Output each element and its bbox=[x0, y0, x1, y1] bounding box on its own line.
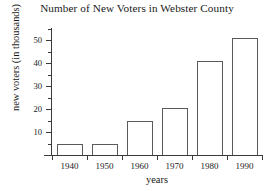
y-axis-major-tick bbox=[46, 63, 52, 64]
x-axis-tick bbox=[52, 155, 53, 160]
x-axis-tick-label: 1990 bbox=[225, 161, 265, 171]
bar-chart-figure: Number of New Voters in Webster County n… bbox=[0, 0, 274, 191]
y-axis-minor-tick bbox=[48, 52, 52, 53]
y-axis-minor-tick bbox=[48, 121, 52, 122]
x-axis-tick bbox=[157, 155, 158, 160]
x-axis-tick-label: 1970 bbox=[155, 161, 195, 171]
x-axis-tick bbox=[262, 155, 263, 160]
bar-1970 bbox=[162, 108, 188, 155]
x-axis-tick-label: 1940 bbox=[50, 161, 90, 171]
x-axis-tick-label: 1950 bbox=[85, 161, 125, 171]
bar-1980 bbox=[197, 61, 223, 155]
y-axis-tick-label: 20 bbox=[18, 105, 42, 114]
y-axis-line bbox=[51, 28, 52, 156]
x-axis-tick bbox=[87, 155, 88, 160]
bar-1940 bbox=[57, 144, 83, 155]
bar-1960 bbox=[127, 121, 153, 155]
y-axis-tick-label: 30 bbox=[18, 82, 42, 91]
x-axis-tick bbox=[192, 155, 193, 160]
y-axis-major-tick bbox=[46, 40, 52, 41]
y-axis-minor-tick bbox=[48, 75, 52, 76]
y-axis-major-tick bbox=[46, 132, 52, 133]
bar-1950 bbox=[92, 144, 118, 155]
chart-title: Number of New Voters in Webster County bbox=[0, 2, 274, 14]
x-axis-tick bbox=[227, 155, 228, 160]
y-axis-major-tick bbox=[46, 86, 52, 87]
y-axis-minor-tick bbox=[48, 144, 52, 145]
y-axis-tick-label: 40 bbox=[18, 59, 42, 68]
x-axis-tick bbox=[122, 155, 123, 160]
x-axis-title: years bbox=[52, 174, 262, 185]
bar-1990 bbox=[232, 38, 258, 155]
x-axis-tick-label: 1980 bbox=[190, 161, 230, 171]
y-axis-major-tick bbox=[46, 109, 52, 110]
x-axis-tick-label: 1960 bbox=[120, 161, 160, 171]
y-axis-minor-tick bbox=[48, 29, 52, 30]
y-axis-tick-label: 10 bbox=[18, 128, 42, 137]
y-axis-minor-tick bbox=[48, 98, 52, 99]
y-axis-tick-label: 50 bbox=[18, 36, 42, 45]
x-axis-line bbox=[44, 155, 263, 156]
